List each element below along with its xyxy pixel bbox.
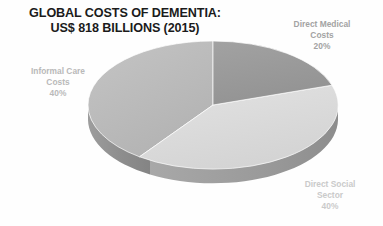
label-medical-line-1: Direct Medical bbox=[294, 19, 351, 29]
slice-label-informal-care-costs: Informal Care Costs 40% bbox=[10, 66, 106, 99]
chart-canvas: GLOBAL COSTS OF DEMENTIA: US$ 818 BILLIO… bbox=[0, 0, 383, 226]
label-social-line-2: Sector bbox=[281, 190, 379, 201]
label-informal-line-2: Costs bbox=[10, 77, 106, 88]
label-informal-line-1: Informal Care bbox=[31, 66, 85, 76]
label-medical-percent: 20% bbox=[272, 41, 372, 52]
slice-label-direct-medical-costs: Direct Medical Costs 20% bbox=[272, 19, 372, 52]
label-social-line-1: Direct Social bbox=[305, 179, 356, 189]
label-social-percent: 40% bbox=[281, 201, 379, 212]
label-medical-line-2: Costs bbox=[272, 30, 372, 41]
label-informal-percent: 40% bbox=[10, 88, 106, 99]
slice-label-direct-social-sector: Direct Social Sector 40% bbox=[281, 179, 379, 212]
